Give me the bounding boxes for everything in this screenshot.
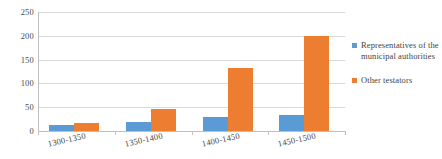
bar-group (38, 12, 115, 131)
bar-series1[interactable] (151, 109, 176, 131)
bar-group (192, 12, 269, 131)
bar-series1[interactable] (304, 36, 329, 131)
x-tick-mark (345, 131, 346, 135)
bar-series0[interactable] (279, 115, 304, 131)
bar-series0[interactable] (126, 122, 151, 131)
bar-series1[interactable] (74, 123, 99, 131)
legend-label: Other testators (361, 75, 440, 86)
y-tick-label: 250 (4, 8, 34, 17)
legend-swatch-icon (352, 43, 357, 48)
x-tick-mark (192, 131, 193, 135)
bar-chart: 250 200 150 100 50 0 1300-1350 1350-1400… (0, 0, 442, 159)
y-tick-label: 100 (4, 79, 34, 88)
chart-legend: Representatives of the municipal authori… (352, 40, 440, 98)
y-tick-label: 0 (4, 127, 34, 136)
bar-series1[interactable] (228, 68, 253, 131)
legend-label: Representatives of the municipal authori… (361, 40, 440, 61)
x-axis-label-2: 1400-1450 (201, 131, 241, 148)
bars-layer (38, 12, 345, 131)
y-tick-label: 150 (4, 56, 34, 65)
legend-item-other-testators[interactable]: Other testators (352, 75, 440, 86)
legend-item-representatives[interactable]: Representatives of the municipal authori… (352, 40, 440, 61)
bar-group (115, 12, 192, 131)
bar-group (268, 12, 345, 131)
y-axis-tick-labels: 250 200 150 100 50 0 (0, 12, 34, 131)
x-axis-label-0: 1300-1350 (47, 131, 87, 148)
x-tick-mark (115, 131, 116, 135)
x-axis-label-1: 1350-1400 (124, 131, 164, 148)
y-tick-label: 200 (4, 32, 34, 41)
bar-series0[interactable] (49, 125, 74, 131)
x-axis-label-3: 1450-1500 (277, 131, 317, 148)
bar-series0[interactable] (203, 117, 228, 131)
y-tick-label: 50 (4, 103, 34, 112)
legend-swatch-icon (352, 78, 357, 83)
x-tick-mark (268, 131, 269, 135)
x-tick-mark (38, 131, 39, 135)
